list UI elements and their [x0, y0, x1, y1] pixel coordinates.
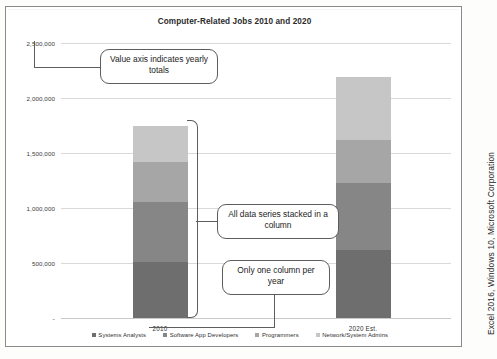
leader-stacked-series [196, 221, 218, 222]
legend-item[interactable]: Programmers [255, 332, 298, 338]
bar-segment[interactable] [336, 77, 391, 140]
bar-segment[interactable] [133, 126, 188, 162]
x-axis-label: 2020 Est. [328, 325, 398, 332]
legend-swatch-icon [255, 333, 259, 337]
gridline [61, 318, 451, 319]
legend-item-label: Programmers [262, 332, 299, 338]
gridline [61, 43, 451, 44]
y-axis-tick-label: - [53, 315, 55, 322]
gridline [61, 98, 451, 99]
gridline [61, 153, 451, 154]
legend-swatch-icon [163, 333, 167, 337]
y-axis-tick-label: 2,500,000 [27, 40, 55, 47]
legend-item-label: Software App Developers [170, 332, 239, 338]
callout-value-axis: Value axis indicates yearly totals [100, 49, 218, 84]
legend-item-label: Network/System Admins [322, 332, 388, 338]
callout-one-column: Only one column per year [222, 260, 330, 295]
chart-title: Computer-Related Jobs 2010 and 2020 [6, 17, 463, 26]
chart-legend: Systems AnalystsSoftware App DevelopersP… [30, 332, 450, 338]
bar-segment[interactable] [336, 250, 391, 318]
leader-one-column-horizontal [149, 327, 275, 328]
bar-segment[interactable] [133, 162, 188, 202]
legend-item[interactable]: Systems Analysts [92, 332, 146, 338]
legend-item[interactable]: Software App Developers [163, 332, 238, 338]
bar-segment[interactable] [336, 140, 391, 183]
bar-group [336, 33, 391, 318]
legend-swatch-icon [92, 333, 96, 337]
callout-stacked-series: All data series stacked in a column [217, 204, 339, 239]
y-axis-tick-label: 1,000,000 [27, 205, 55, 212]
y-axis-tick-label: 2,000,000 [27, 95, 55, 102]
leader-value-axis-vertical [34, 41, 35, 68]
stacked-bar[interactable] [336, 33, 391, 318]
legend-swatch-icon [316, 333, 320, 337]
y-axis-labels: -500,0001,000,0001,500,0002,000,0002,500… [6, 33, 58, 318]
legend-item-label: Systems Analysts [98, 332, 146, 338]
source-caption: Excel 2016, Windows 10, Microsoft Corpor… [473, 0, 493, 359]
y-axis-tick-label: 500,000 [32, 260, 55, 267]
column-bracket [187, 120, 198, 318]
source-caption-text: Excel 2016, Windows 10, Microsoft Corpor… [486, 152, 496, 335]
bar-segment[interactable] [133, 202, 188, 262]
bar-segment[interactable] [336, 183, 391, 250]
y-axis-tick-label: 1,500,000 [27, 150, 55, 157]
bar-segment[interactable] [133, 262, 188, 318]
leader-one-column-vertical [274, 294, 275, 327]
leader-value-axis-horizontal [34, 67, 104, 68]
figure-frame: Computer-Related Jobs 2010 and 2020 -500… [5, 6, 462, 347]
legend-item[interactable]: Network/System Admins [316, 332, 388, 338]
figure-page: Computer-Related Jobs 2010 and 2020 -500… [0, 0, 497, 359]
